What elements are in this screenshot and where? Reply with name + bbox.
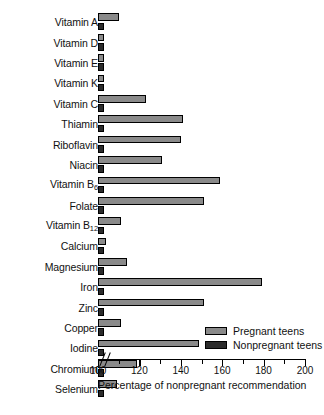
legend-label-nonpregnant: Nonpregnant teens — [233, 339, 322, 351]
bar-pregnant — [98, 258, 127, 266]
bar-group — [98, 258, 324, 276]
chart-row: Chromium — [0, 359, 324, 379]
category-label-vitamin-c: Vitamin C — [54, 98, 98, 109]
bar-pregnant — [98, 13, 119, 21]
category-label-vitamin-d: Vitamin D — [54, 37, 98, 48]
category-label-vitamin-b6: Vitamin B6 — [50, 179, 98, 191]
category-label-niacin: Niacin — [69, 159, 98, 170]
chart-row: Calcium — [0, 236, 324, 256]
x-tick — [160, 359, 161, 364]
bar-nonpregnant — [98, 247, 104, 255]
bar-nonpregnant — [98, 84, 104, 92]
bar-group — [98, 176, 324, 194]
x-tick — [284, 359, 285, 364]
x-tick-label-120: 120 — [131, 365, 148, 376]
bar-pregnant — [98, 115, 183, 123]
x-tick-label-180: 180 — [255, 365, 272, 376]
chart-row: Folate — [0, 196, 324, 216]
category-label-vitamin-a: Vitamin A — [55, 17, 98, 28]
category-label-iodine: Iodine — [70, 343, 98, 354]
x-tick-label-160: 160 — [214, 365, 231, 376]
x-tick-label-200: 200 — [297, 365, 314, 376]
legend-label-pregnant: Pregnant teens — [233, 325, 304, 337]
bar-nonpregnant — [98, 267, 104, 275]
category-label-vitamin-k: Vitamin K — [54, 78, 98, 89]
bar-nonpregnant — [98, 145, 104, 153]
category-label-folate: Folate — [69, 200, 98, 211]
bar-group — [98, 54, 324, 72]
bar-group — [98, 278, 324, 296]
legend-swatch-nonpregnant — [205, 341, 227, 349]
chart-row: Vitamin C — [0, 94, 324, 114]
bar-nonpregnant — [98, 43, 104, 51]
bar-pregnant — [98, 319, 121, 327]
legend-item-nonpregnant: Nonpregnant teens — [205, 339, 322, 351]
bar-group — [98, 33, 324, 51]
category-label-copper: Copper — [64, 323, 98, 334]
bar-nonpregnant — [98, 227, 104, 235]
bar-group — [98, 74, 324, 92]
bar-nonpregnant — [98, 63, 104, 71]
bar-pregnant — [98, 75, 104, 83]
chart-row: Vitamin A — [0, 12, 324, 32]
legend-swatch-pregnant — [205, 327, 227, 335]
bar-group — [98, 95, 324, 113]
x-axis-title: Percentage of nonpregnant recommendation — [98, 379, 305, 391]
bar-chart: Vitamin AVitamin DVitamin EVitamin KVita… — [0, 0, 324, 415]
chart-row: Thiamin — [0, 114, 324, 134]
chart-row: Zinc — [0, 297, 324, 317]
bar-pregnant — [98, 177, 220, 185]
bar-pregnant — [98, 197, 204, 205]
chart-row: Niacin — [0, 155, 324, 175]
bar-pregnant — [98, 340, 199, 348]
bar-nonpregnant — [98, 206, 104, 214]
bar-group — [98, 156, 324, 174]
chart-row: Vitamin E — [0, 53, 324, 73]
bar-nonpregnant — [98, 308, 104, 316]
chart-row: Vitamin D — [0, 32, 324, 52]
chart-row: Iron — [0, 277, 324, 297]
x-tick — [202, 359, 203, 364]
bar-pregnant — [98, 54, 104, 62]
chart-row: Vitamin K — [0, 73, 324, 93]
x-tick — [243, 359, 244, 364]
bar-group — [98, 115, 324, 133]
x-tick-label-140: 140 — [172, 365, 189, 376]
bar-pregnant — [98, 217, 121, 225]
bar-pregnant — [98, 156, 162, 164]
bar-group — [98, 217, 324, 235]
legend-item-pregnant: Pregnant teens — [205, 325, 322, 337]
category-label-riboflavin: Riboflavin — [53, 139, 98, 150]
bar-nonpregnant — [98, 165, 104, 173]
chart-row: Magnesium — [0, 257, 324, 277]
category-label-zinc: Zinc — [79, 302, 98, 313]
bar-nonpregnant — [98, 328, 104, 336]
bar-pregnant — [98, 136, 181, 144]
chart-row: Vitamin B12 — [0, 216, 324, 236]
category-label-selenium: Selenium — [55, 384, 98, 395]
x-tick — [119, 359, 120, 364]
bar-group — [98, 135, 324, 153]
chart-row: Riboflavin — [0, 134, 324, 154]
bar-pregnant — [98, 238, 106, 246]
bar-group — [98, 13, 324, 31]
bar-pregnant — [98, 299, 204, 307]
bar-pregnant — [98, 95, 146, 103]
bar-group — [98, 237, 324, 255]
bar-pregnant — [98, 34, 104, 42]
bar-nonpregnant — [98, 125, 104, 133]
bar-group — [98, 197, 324, 215]
chart-legend: Pregnant teens Nonpregnant teens — [205, 325, 322, 353]
category-label-magnesium: Magnesium — [45, 261, 98, 272]
category-label-vitamin-e: Vitamin E — [54, 57, 98, 68]
bar-nonpregnant — [98, 23, 104, 31]
bar-nonpregnant — [98, 104, 104, 112]
chart-row: Vitamin B6 — [0, 175, 324, 195]
category-label-calcium: Calcium — [61, 241, 98, 252]
bar-nonpregnant — [98, 186, 104, 194]
bar-pregnant — [98, 278, 262, 286]
category-label-thiamin: Thiamin — [61, 119, 98, 130]
bar-nonpregnant — [98, 288, 104, 296]
x-tick-label-zero: 0 — [95, 365, 101, 376]
category-label-vitamin-b12: Vitamin B12 — [46, 220, 98, 232]
